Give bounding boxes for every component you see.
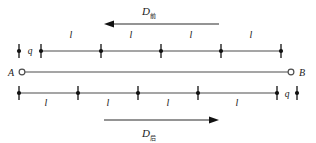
middle-ab-line: A B <box>7 67 305 78</box>
node-label-a: A <box>7 67 15 78</box>
top-row-segment-label: l <box>250 29 253 40</box>
bottom-arrow-head-right <box>209 117 219 124</box>
bottom-direction-arrow <box>104 117 219 124</box>
bottom-row-segment-label: l <box>167 97 170 108</box>
top-row-tick <box>99 44 103 58</box>
top-row-segment-label: l <box>130 29 133 40</box>
physics-diagram-figure: D前 q <box>0 0 316 143</box>
bottom-row-tick <box>196 86 200 100</box>
top-row-segment-label: l <box>70 29 73 40</box>
top-direction-arrow <box>104 21 219 28</box>
top-arrow-symbol-base: D <box>141 5 150 17</box>
bottom-arrow-symbol: D后 <box>141 127 156 142</box>
node-circle-b <box>288 69 294 75</box>
bottom-row-segment-label: l <box>45 97 48 108</box>
bottom-charge-row: q l l l l <box>17 86 299 108</box>
top-row-segment-label: l <box>190 29 193 40</box>
bottom-row-tick <box>17 86 21 100</box>
bottom-row-segment-label: l <box>236 97 239 108</box>
top-charge-row: q l <box>17 29 283 58</box>
node-label-b: B <box>299 67 305 78</box>
bottom-row-lone-tick <box>295 86 299 100</box>
top-row-tick <box>279 44 283 58</box>
top-row-tick <box>39 44 43 58</box>
diagram-canvas: D前 q <box>0 0 316 143</box>
top-row-tick <box>159 44 163 58</box>
top-arrow-symbol: D前 <box>141 5 156 20</box>
bottom-row-tick <box>136 86 140 100</box>
top-arrow-head-left <box>104 21 114 28</box>
bottom-row-segment-label: l <box>107 97 110 108</box>
bottom-arrow-symbol-subscript: 后 <box>150 134 156 142</box>
bottom-arrow-symbol-base: D <box>141 127 150 139</box>
bottom-row-tick <box>275 86 279 100</box>
bottom-row-tick <box>76 86 80 100</box>
top-row-tick <box>219 44 223 58</box>
node-circle-a <box>19 69 25 75</box>
top-row-charge-label: q <box>28 46 33 56</box>
bottom-row-charge-label: q <box>285 89 290 99</box>
top-arrow-symbol-subscript: 前 <box>150 12 156 20</box>
top-row-lone-tick <box>17 44 21 58</box>
